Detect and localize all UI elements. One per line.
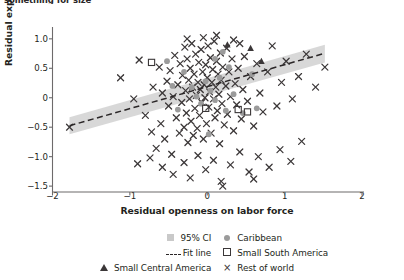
legend-cell: Caribbean <box>211 233 396 243</box>
legend-item-caribbean[interactable]: Caribbean <box>220 233 282 243</box>
marker-triangle <box>247 45 254 51</box>
marker-circle <box>181 69 187 75</box>
legend-row: 95% CI Caribbean <box>96 230 396 245</box>
marker-circle <box>175 107 181 113</box>
legend-row: Fit line Small South America <box>96 245 396 260</box>
marker-circle <box>212 56 218 62</box>
dashed-line-icon <box>166 248 180 258</box>
marker-circle <box>164 58 170 64</box>
ci-swatch-icon <box>163 233 177 243</box>
legend-label: 95% CI <box>180 233 211 243</box>
legend-item-small-south-america[interactable]: Small South America <box>220 248 328 258</box>
open-square-icon <box>220 248 234 258</box>
marker-circle <box>226 64 232 70</box>
legend-cell: 95% CI <box>96 233 211 243</box>
legend-item-rest-of-world[interactable]: × Rest of world <box>220 263 294 273</box>
marker-circle <box>207 88 213 94</box>
ci-band <box>70 45 325 135</box>
marker-circle <box>203 78 209 84</box>
marker-circle <box>254 105 260 111</box>
legend-cell: × Rest of world <box>211 263 396 273</box>
legend-label: Small Central America <box>114 263 211 273</box>
marker-open-square <box>148 59 154 65</box>
filled-triangle-icon <box>97 263 111 273</box>
marker-triangle <box>224 41 231 47</box>
legend-row: Small Central America × Rest of world <box>96 260 396 275</box>
legend-item-95-ci[interactable]: 95% CI <box>163 233 211 243</box>
marker-circle <box>206 131 212 137</box>
marker-circle <box>231 91 237 97</box>
legend-cell: Small Central America <box>96 263 211 273</box>
marker-circle <box>189 84 195 90</box>
legend-cell: Small South America <box>211 248 396 258</box>
cross-x-icon: × <box>220 263 234 273</box>
legend-label: Rest of world <box>237 263 294 273</box>
marker-circle <box>223 108 229 114</box>
marker-circle <box>212 97 218 103</box>
marker-circle <box>194 94 200 100</box>
marker-circle <box>217 75 223 81</box>
marker-circle <box>220 49 226 55</box>
marker-circle <box>170 83 176 89</box>
legend-item-fit-line[interactable]: Fit line <box>166 248 212 258</box>
filled-circle-icon <box>220 233 234 243</box>
scatter-chart-figure: something for size Residual export lines… <box>0 0 404 280</box>
legend-label: Small South America <box>237 248 328 258</box>
legend-label: Fit line <box>183 248 212 258</box>
chart-legend: 95% CI Caribbean Fit line Small <box>96 230 396 275</box>
legend-cell: Fit line <box>96 248 211 258</box>
legend-label: Caribbean <box>237 233 282 243</box>
legend-item-small-central-america[interactable]: Small Central America <box>97 263 211 273</box>
marker-circle <box>249 71 255 77</box>
